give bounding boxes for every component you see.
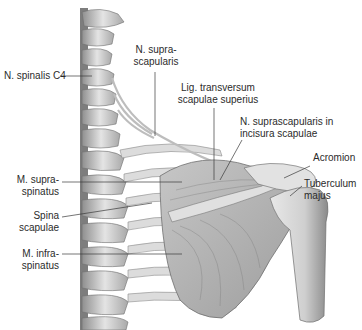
label-n-spinalis-c4: N. spinalis C4 (4, 70, 58, 82)
humerus (270, 187, 328, 322)
label-acromion: Acromion (313, 152, 355, 164)
label-n-suprascapularis: N. supra- scapularis (130, 44, 182, 68)
label-spina-scapulae: Spina scapulae (4, 210, 59, 234)
label-lig-transversum: Lig. transversum scapulae superius (176, 82, 260, 106)
label-tuberculum-majus: Tuberculum majus (304, 178, 356, 202)
label-m-infraspinatus: M. infra- spinatus (4, 248, 59, 272)
label-m-supraspinatus: M. supra- spinatus (4, 174, 59, 198)
label-n-suprascapularis-incisura: N. suprascapularis in incisura scapulae (240, 116, 333, 140)
vertebral-column (80, 8, 128, 330)
